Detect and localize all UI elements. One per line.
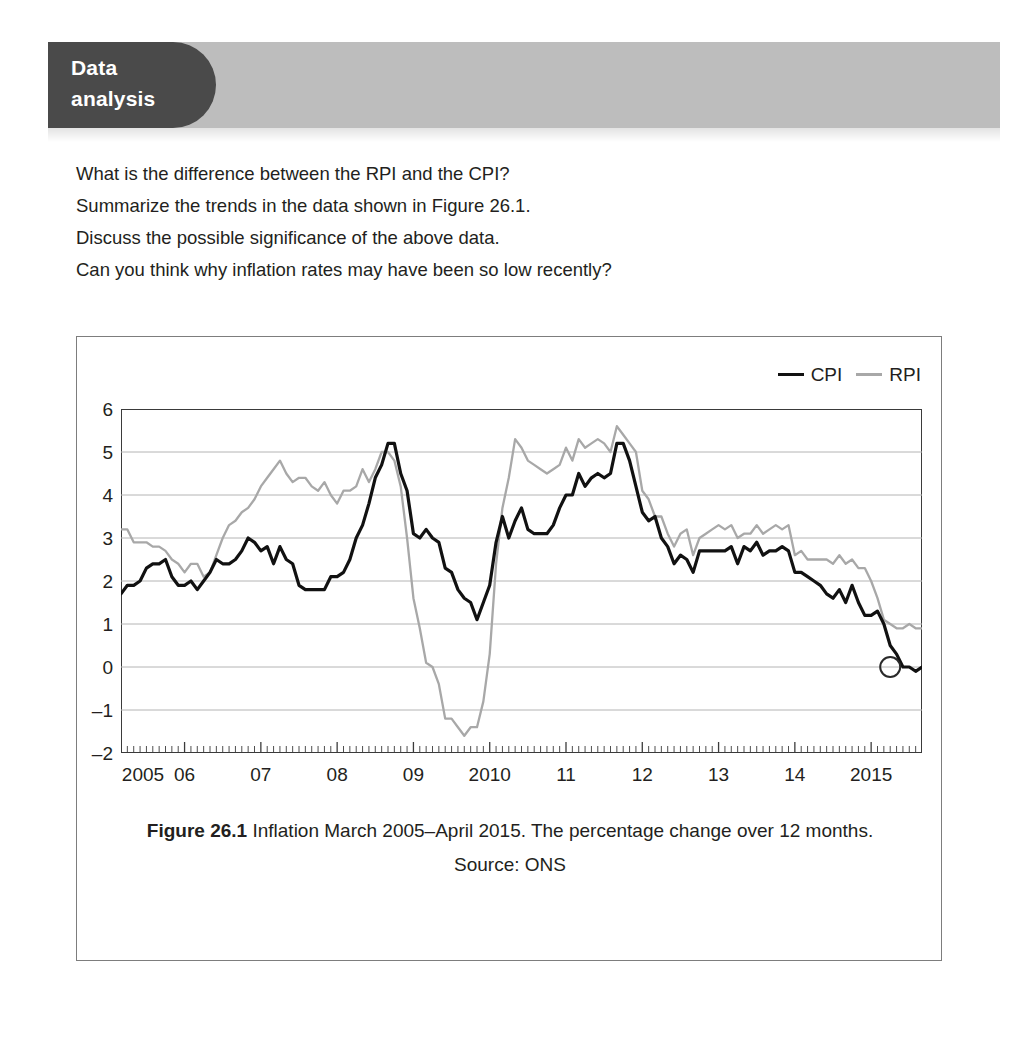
figure-caption: Figure 26.1 Inflation March 2005–April 2… (117, 815, 903, 881)
question-item: Can you think why inflation rates may ha… (76, 254, 956, 286)
x-axis-tick-label: 14 (784, 765, 805, 784)
page-canvas: Data analysis What is the difference bet… (0, 0, 1026, 1044)
chart-gridlines (121, 409, 922, 753)
x-axis-tick-label: 11 (556, 765, 576, 784)
y-axis-tick-label: 3 (79, 529, 113, 548)
legend-item-rpi: RPI (856, 365, 921, 384)
figure-caption-text: Inflation March 2005–April 2015. The per… (247, 820, 873, 841)
figure-container: CPI RPI 6543210–1–2 20050607080920101112… (76, 336, 942, 961)
chart-minor-ticks (121, 742, 922, 753)
legend-item-cpi: CPI (778, 365, 843, 384)
figure-number: Figure 26.1 (147, 820, 247, 841)
legend-label-rpi: RPI (889, 365, 921, 384)
question-item: What is the difference between the RPI a… (76, 158, 956, 190)
y-axis-tick-label: 6 (79, 400, 113, 419)
x-axis-tick-label: 08 (327, 765, 348, 784)
figure-source: Source: ONS (117, 849, 903, 881)
question-list: What is the difference between the RPI a… (76, 158, 956, 286)
x-axis-tick-label: 09 (403, 765, 424, 784)
y-axis-tick-label: 1 (79, 615, 113, 634)
y-axis-tick-label: –1 (79, 701, 113, 720)
section-header-tab-text: Data analysis (71, 52, 156, 114)
chart-plot (121, 409, 922, 753)
y-axis-tick-label: –2 (79, 744, 113, 763)
x-axis-tick-label: 07 (250, 765, 271, 784)
tab-line-1: Data (71, 52, 156, 83)
x-axis-tick-label: 13 (708, 765, 729, 784)
y-axis-tick-label: 2 (79, 572, 113, 591)
section-header-tab: Data analysis (48, 42, 216, 128)
y-axis-tick-label: 4 (79, 486, 113, 505)
y-axis-tick-label: 5 (79, 443, 113, 462)
legend-line-icon-cpi (778, 373, 804, 376)
x-axis-tick-label: 2005 (122, 765, 164, 784)
y-axis-tick-label: 0 (79, 658, 113, 677)
legend-label-cpi: CPI (811, 365, 843, 384)
x-axis-tick-label: 2015 (850, 765, 892, 784)
x-axis-tick-label: 06 (174, 765, 195, 784)
header-shadow (48, 128, 1000, 142)
series-line-cpi (121, 443, 922, 671)
question-item: Summarize the trends in the data shown i… (76, 190, 956, 222)
chart-legend: CPI RPI (778, 365, 921, 384)
question-item: Discuss the possible significance of the… (76, 222, 956, 254)
tab-line-2: analysis (71, 83, 156, 114)
x-axis-tick-label: 12 (632, 765, 653, 784)
x-axis-tick-label: 2010 (469, 765, 511, 784)
legend-line-icon-rpi (856, 373, 882, 376)
